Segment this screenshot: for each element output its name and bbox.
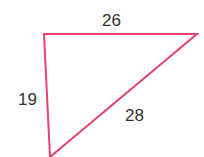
left-side-label: 19 (18, 91, 37, 108)
triangle-diagram: 26 19 28 (0, 0, 204, 157)
hypotenuse-label: 28 (125, 107, 144, 124)
top-side-label: 26 (102, 12, 121, 29)
